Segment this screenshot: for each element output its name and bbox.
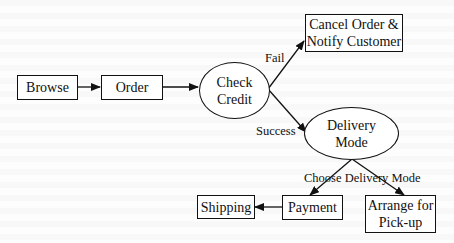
node-arrange-pickup-label: Arrange for Pick-up [368,197,434,231]
node-browse-label: Browse [26,79,69,96]
node-check-credit: Check Credit [199,62,270,119]
node-shipping: Shipping [197,195,255,219]
edge-check-credit-to-cancel [268,41,304,89]
node-order: Order [101,75,163,100]
edge-label-success: Success [256,124,296,138]
node-payment: Payment [282,195,343,220]
node-delivery-mode-label: Delivery Mode [327,117,376,151]
edge-label-choose-delivery-mode: Choose Delivery Mode [304,171,421,185]
node-check-credit-label: Check Credit [217,74,253,108]
node-payment-label: Payment [288,199,337,216]
node-order-label: Order [116,79,149,96]
node-arrange-pickup: Arrange for Pick-up [365,195,436,233]
node-shipping-label: Shipping [201,199,252,216]
node-delivery-mode: Delivery Mode [304,107,399,160]
node-cancel-order-notify: Cancel Order & Notify Customer [305,14,403,52]
node-browse: Browse [17,75,78,100]
edge-label-fail: Fail [265,51,284,65]
node-cancel-order-notify-label: Cancel Order & Notify Customer [307,16,402,50]
